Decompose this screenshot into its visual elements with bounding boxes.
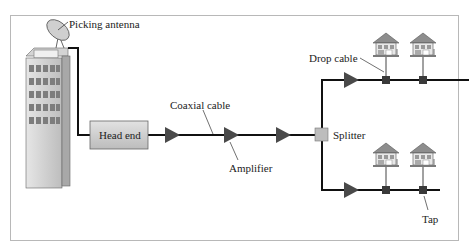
label-amplifier: Amplifier (229, 163, 272, 174)
tap-icon (419, 186, 427, 194)
amplifier-icon (344, 72, 359, 88)
tap-icon (419, 76, 427, 84)
house-icon (373, 143, 399, 167)
drop-cables (386, 56, 423, 190)
taps (382, 76, 427, 194)
amplifier-icon (165, 127, 180, 143)
label-tap: Tap (422, 214, 438, 225)
label-coaxial-cable: Coaxial cable (170, 100, 230, 111)
cable-network-diagram (0, 0, 469, 249)
house-icon (373, 33, 399, 57)
label-picking-antenna: Picking antenna (69, 19, 140, 30)
label-splitter: Splitter (333, 130, 365, 141)
amplifier-icon (224, 127, 239, 143)
label-head-end: Head end (99, 130, 141, 141)
tap-icon (382, 186, 390, 194)
house-icon (410, 143, 436, 167)
house-icon (410, 33, 436, 57)
tap-icon (382, 76, 390, 84)
amplifier-icon (344, 182, 359, 198)
amplifier-icon (276, 127, 291, 143)
label-drop-cable: Drop cable (309, 53, 358, 64)
building-icon (26, 48, 70, 188)
splitter-icon (315, 128, 328, 141)
